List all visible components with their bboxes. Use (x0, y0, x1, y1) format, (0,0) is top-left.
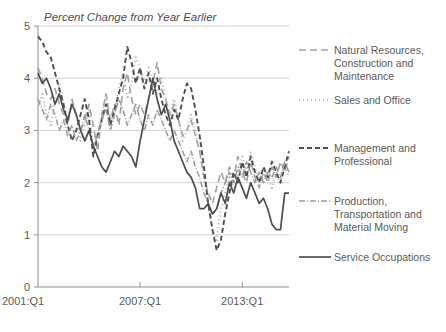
x-tick-label-2013:Q1: 2013:Q1 (221, 295, 263, 307)
y-axis-tick-labels: 012345 (24, 20, 30, 293)
legend-label-2-line-1: Professional (334, 155, 392, 167)
y-tick-label-1: 1 (24, 229, 30, 241)
x-tick-label-2001:Q1: 2001:Q1 (2, 295, 44, 307)
legend-label-2-line-0: Management and (334, 142, 416, 154)
legend-label-4-line-0: Service Occupations (334, 251, 430, 263)
y-tick-label-3: 3 (24, 124, 30, 136)
series-line-2 (38, 36, 289, 250)
y-tick-label-5: 5 (24, 20, 30, 32)
y-tick-label-0: 0 (24, 281, 30, 293)
legend-label-1-line-0: Sales and Office (334, 94, 411, 106)
chart-title: Percent Change from Year Earlier (44, 11, 218, 23)
legend-label-3-line-2: Material Moving (334, 221, 408, 233)
series-line-1 (38, 57, 289, 240)
chart-figure: Percent Change from Year Earlier 012345 … (0, 0, 446, 332)
line-chart-svg: Percent Change from Year Earlier 012345 … (0, 0, 446, 332)
data-series-group (38, 36, 289, 250)
x-axis-tick-marks (140, 282, 242, 287)
y-tick-label-4: 4 (24, 72, 30, 84)
legend-label-3-line-0: Production, (334, 195, 387, 207)
legend-label-3-line-1: Transportation and (334, 208, 422, 220)
series-line-4 (38, 73, 289, 230)
legend-label-0-line-1: Construction and (334, 57, 414, 69)
legend-label-0-line-0: Natural Resources, (334, 44, 424, 56)
x-tick-label-2007:Q1: 2007:Q1 (119, 295, 161, 307)
x-axis-tick-labels: 2001:Q12007:Q12013:Q1 (2, 295, 263, 307)
chart-legend: Natural Resources,Construction andMainte… (299, 44, 430, 263)
legend-label-0-line-2: Maintenance (334, 70, 394, 82)
y-tick-label-2: 2 (24, 177, 30, 189)
